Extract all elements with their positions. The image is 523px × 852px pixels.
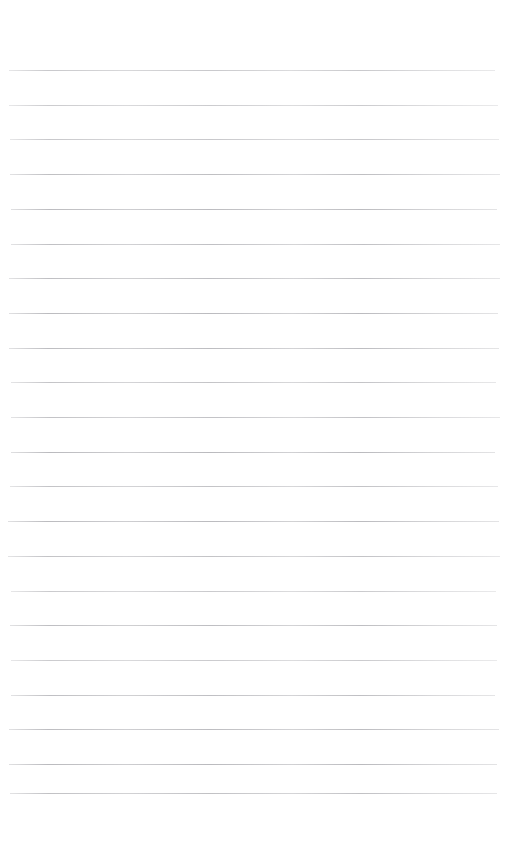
rule-line bbox=[8, 556, 500, 557]
rule-line bbox=[9, 729, 499, 730]
ruled-writing-area[interactable] bbox=[0, 0, 523, 852]
rule-line bbox=[10, 793, 497, 794]
rule-line bbox=[11, 660, 497, 661]
rule-line bbox=[9, 70, 495, 71]
rule-line bbox=[9, 278, 500, 279]
rule-line bbox=[11, 209, 497, 210]
rule-line bbox=[9, 313, 498, 314]
rule-line bbox=[11, 695, 495, 696]
rule-line bbox=[9, 105, 498, 106]
rule-line bbox=[10, 139, 499, 140]
rule-line bbox=[11, 591, 496, 592]
lined-paper-page bbox=[0, 0, 523, 852]
rule-line bbox=[8, 521, 499, 522]
rule-line bbox=[10, 625, 497, 626]
rule-line bbox=[11, 382, 496, 383]
rule-line bbox=[11, 244, 500, 245]
rule-line bbox=[11, 417, 500, 418]
rule-line bbox=[10, 486, 498, 487]
rule-line bbox=[9, 348, 499, 349]
rule-line bbox=[9, 764, 497, 765]
rule-line bbox=[10, 174, 500, 175]
rule-line bbox=[11, 452, 495, 453]
